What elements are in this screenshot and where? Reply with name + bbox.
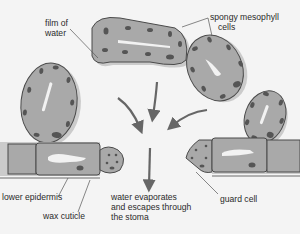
label-line: cells bbox=[210, 22, 279, 32]
label-wax-cuticle: wax cuticle bbox=[43, 211, 85, 221]
label-spongy-mesophyll: spongy mesophyll cells bbox=[210, 12, 279, 32]
label-film-of-water: film of water bbox=[45, 18, 68, 38]
label-line: and escapes through bbox=[111, 202, 191, 212]
water-vapour-arrows bbox=[118, 82, 207, 186]
label-guard-cell: guard cell bbox=[220, 194, 257, 204]
spongy-mesophyll-cell bbox=[176, 26, 254, 110]
guard-cell-left bbox=[100, 147, 124, 173]
guard-cell-right bbox=[186, 140, 212, 173]
label-water-evaporates: water evaporates and escapes through the… bbox=[111, 192, 191, 222]
label-line: film of bbox=[45, 18, 68, 28]
label-line: the stoma bbox=[111, 212, 191, 222]
spongy-mesophyll-cell bbox=[92, 17, 187, 64]
label-lower-epidermis: lower epidermis bbox=[2, 192, 62, 202]
label-line: spongy mesophyll bbox=[210, 12, 279, 22]
label-line: lower epidermis bbox=[2, 192, 62, 202]
label-line: guard cell bbox=[220, 194, 257, 204]
lower-epidermis-right bbox=[212, 138, 300, 176]
label-line: water evaporates bbox=[111, 192, 191, 202]
label-line: water bbox=[45, 28, 68, 38]
label-line: wax cuticle bbox=[43, 211, 85, 221]
lower-epidermis-left bbox=[0, 142, 100, 178]
